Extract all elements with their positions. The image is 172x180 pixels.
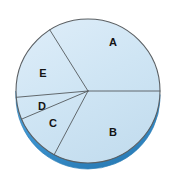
slice-label-e: E	[39, 68, 47, 79]
slice-label-a: A	[109, 37, 117, 48]
slice-label-b: B	[109, 127, 117, 138]
slice-label-d: D	[38, 101, 46, 112]
slice-label-c: C	[49, 118, 57, 129]
pie-chart-figure: A B C D E	[0, 0, 172, 180]
pie-chart-svg	[0, 0, 172, 180]
